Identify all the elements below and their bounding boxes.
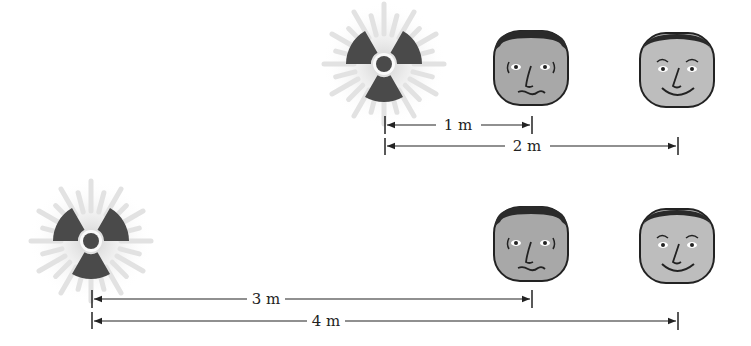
distance-3m: 3 m — [92, 290, 532, 308]
distance-label: 3 m — [252, 290, 281, 308]
distance-4m: 4 m — [92, 312, 678, 330]
diagram-canvas: 1 m 2 m 3 m 4 m — [0, 0, 751, 346]
smiling-face-icon — [640, 33, 714, 107]
row-1: 1 m 2 m — [322, 2, 714, 155]
radiation-trefoil-icon — [29, 179, 153, 303]
distance-label: 2 m — [513, 137, 542, 155]
worried-face-icon — [494, 30, 568, 105]
distance-label: 1 m — [444, 116, 473, 134]
row-2: 3 m 4 m — [29, 179, 714, 330]
distance-2m: 2 m — [385, 137, 678, 155]
worried-face-icon — [494, 206, 568, 281]
distance-label: 4 m — [312, 312, 341, 330]
radiation-trefoil-icon — [322, 2, 446, 126]
smiling-face-icon — [640, 209, 714, 283]
